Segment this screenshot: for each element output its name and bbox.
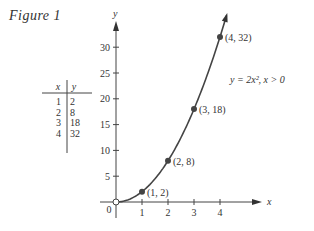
data-point <box>191 106 197 112</box>
data-point <box>165 158 171 164</box>
table-cell-x: 3 <box>56 117 61 128</box>
y-axis-arrow-icon <box>113 21 119 31</box>
table-header-y: y <box>71 81 77 92</box>
y-tick-label: 25 <box>100 68 110 79</box>
data-point-label: (4, 32) <box>225 32 252 44</box>
data-point-label: (1, 2) <box>147 187 169 199</box>
x-axis-label: x <box>266 196 272 207</box>
y-axis-label: y <box>112 8 118 19</box>
equation-label: y = 2x², x > 0 <box>229 74 285 85</box>
origin-label: 0 <box>107 204 112 215</box>
x-tick-label: 4 <box>218 207 223 218</box>
chart: x y 1228318432 x y 0 1234 51015202530 (1… <box>0 0 314 231</box>
data-point <box>139 189 145 195</box>
y-tick-label: 15 <box>100 119 110 130</box>
origin-open-circle-icon <box>113 199 119 205</box>
x-tick-label: 3 <box>192 207 197 218</box>
curve-arrow-icon <box>222 13 228 22</box>
y-tick-label: 20 <box>100 93 110 104</box>
table-cell-y: 2 <box>70 96 75 107</box>
table-cell-x: 1 <box>56 96 61 107</box>
y-tick-label: 5 <box>105 171 110 182</box>
table-cell-y: 8 <box>70 107 75 118</box>
y-tick-label: 30 <box>100 42 110 53</box>
x-tick-label: 1 <box>140 207 145 218</box>
table-header-x: x <box>55 81 61 92</box>
value-table: x y 1228318432 <box>42 80 92 153</box>
x-axis-arrow-icon <box>252 199 262 205</box>
table-cell-x: 2 <box>56 107 61 118</box>
data-point-label: (2, 8) <box>173 156 195 168</box>
data-point-label: (3, 18) <box>199 104 226 116</box>
table-cell-x: 4 <box>56 128 61 139</box>
data-point <box>217 34 223 40</box>
table-cell-y: 18 <box>70 117 80 128</box>
x-tick-label: 2 <box>166 207 171 218</box>
y-tick-label: 10 <box>100 145 110 156</box>
table-cell-y: 32 <box>70 128 80 139</box>
